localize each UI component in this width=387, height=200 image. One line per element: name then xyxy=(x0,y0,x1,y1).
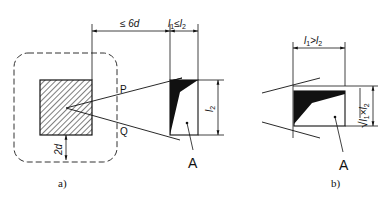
point-q-label: Q xyxy=(120,126,128,137)
caption-b: b) xyxy=(331,177,341,190)
area-label-a: A xyxy=(188,155,198,171)
point-p-label: P xyxy=(120,84,127,95)
hatched-square xyxy=(40,80,92,135)
dim-width-label-b: l1>l2 xyxy=(304,35,322,47)
area-label-b: A xyxy=(339,157,349,173)
dim-distance-label: ≤ 6d xyxy=(120,18,140,29)
figure-a: ≤ 6d l1≤l2 A l2 P Q 2d a) xyxy=(14,18,224,190)
dim-height-label-b: √l1×l2 xyxy=(356,103,370,128)
dim-width-label: l1≤l2 xyxy=(168,18,186,30)
diagram-canvas: ≤ 6d l1≤l2 A l2 P Q 2d a) xyxy=(0,0,387,200)
figure-b: l1>l2 A √l1×l2 b) xyxy=(262,35,378,190)
dim-margin-label: 2d xyxy=(53,143,64,156)
caption-a: a) xyxy=(58,177,67,190)
dim-height-label-a: l2 xyxy=(204,106,216,112)
